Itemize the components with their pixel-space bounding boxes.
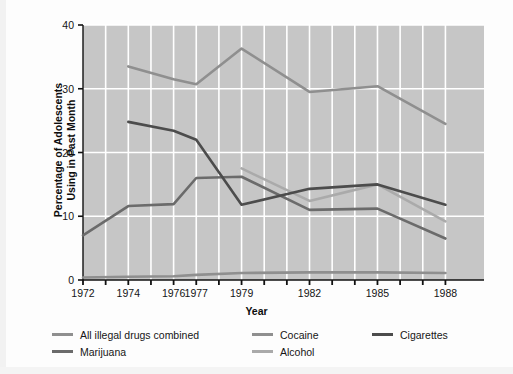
legend-item-alcohol[interactable]: Alcohol bbox=[252, 344, 314, 359]
x-tick-label: 1985 bbox=[366, 287, 390, 299]
legend-swatch-icon bbox=[52, 333, 73, 336]
x-tick-label: 1976 bbox=[162, 287, 186, 299]
x-tick-label: 1979 bbox=[230, 287, 254, 299]
legend-item-all-illegal-drugs-combined[interactable]: All illegal drugs combined bbox=[52, 327, 199, 342]
legend-swatch-icon bbox=[52, 350, 73, 353]
y-axis-title: Percentage of Adolescents Using in Past … bbox=[30, 50, 52, 250]
y-axis-title-line2: Using in Past Month bbox=[65, 100, 77, 201]
y-tick-label: 40 bbox=[62, 19, 74, 31]
legend-label: Marijuana bbox=[80, 346, 126, 358]
legend-label: All illegal drugs combined bbox=[80, 329, 199, 341]
x-tick-label: 1988 bbox=[434, 287, 458, 299]
y-tick-label: 0 bbox=[68, 274, 74, 286]
x-tick-label: 1974 bbox=[117, 287, 141, 299]
legend-item-cigarettes[interactable]: Cigarettes bbox=[372, 327, 448, 342]
x-tick-label: 1982 bbox=[298, 287, 322, 299]
legend-swatch-icon bbox=[372, 333, 393, 336]
legend-swatch-icon bbox=[252, 333, 273, 336]
chart-legend: All illegal drugs combinedMarijuanaCocai… bbox=[52, 327, 472, 363]
legend-label: Cocaine bbox=[280, 329, 319, 341]
y-axis-title-text: Percentage of Adolescents Using in Past … bbox=[52, 50, 78, 250]
legend-swatch-icon bbox=[252, 350, 273, 353]
line-chart: 0102030401972197419761977197919821985198… bbox=[0, 0, 513, 374]
y-axis-title-line1: Percentage of Adolescents bbox=[52, 83, 64, 217]
legend-item-cocaine[interactable]: Cocaine bbox=[252, 327, 319, 342]
legend-item-marijuana[interactable]: Marijuana bbox=[52, 344, 126, 359]
legend-label: Cigarettes bbox=[400, 329, 448, 341]
x-axis-title: Year bbox=[0, 305, 513, 317]
x-tick-label: 1972 bbox=[71, 287, 95, 299]
figure-root: 0102030401972197419761977197919821985198… bbox=[0, 0, 513, 374]
x-tick-label: 1977 bbox=[185, 287, 209, 299]
legend-label: Alcohol bbox=[280, 346, 314, 358]
